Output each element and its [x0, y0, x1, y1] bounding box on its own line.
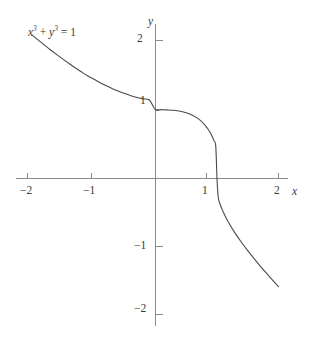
x-axis-tick-label-neg2: −2 [20, 185, 32, 197]
y-axis-name-label: y [148, 16, 153, 28]
x-axis-tick-label-pos1: 1 [202, 185, 208, 197]
x-axis-name-label: x [292, 186, 297, 198]
equation-plus-sign: + [37, 26, 49, 38]
x-axis-tick-label-pos2: 2 [274, 185, 280, 197]
y-axis-tick-label-neg1: −1 [134, 240, 146, 252]
plot-canvas [0, 0, 314, 337]
x-axis-tick-label-neg1: −1 [83, 185, 95, 197]
curve-equation-label: x3 + y3 = 1 [28, 27, 76, 39]
equation-equals-one: = 1 [58, 26, 76, 38]
y-axis-tick-label-pos1: 1 [140, 95, 146, 107]
graph-figure: x3 + y3 = 1 −2 −1 1 2 2 1 −1 −2 x y [0, 0, 314, 337]
y-axis-tick-label-neg2: −2 [134, 303, 146, 315]
y-axis-tick-label-pos2: 2 [137, 33, 143, 45]
